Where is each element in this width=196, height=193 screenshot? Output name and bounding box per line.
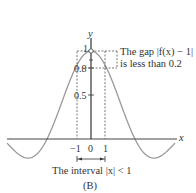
- x-tick-label-neg1: −1: [70, 143, 81, 154]
- panel-label: (B): [83, 180, 97, 191]
- gap-annotation-line1: The gap |f(x) − 1|: [120, 46, 193, 57]
- arrow-left-icon: [78, 158, 82, 161]
- x-tick-label-0: 0: [88, 143, 93, 154]
- y-axis-label: y: [88, 28, 93, 39]
- y-tick-label-08: 0.8: [74, 63, 87, 74]
- interval-annotation: The interval |x| < 1: [52, 165, 132, 176]
- x-tick-label-1: 1: [103, 143, 108, 154]
- y-tick-label-05: 0.5: [74, 90, 87, 101]
- gap-annotation-line2: is less than 0.2: [120, 58, 182, 69]
- open-circle-point: [89, 49, 93, 53]
- y-tick-label-1: 1: [83, 43, 88, 54]
- arrow-right-icon: [100, 158, 104, 161]
- x-axis-label: x: [179, 132, 184, 143]
